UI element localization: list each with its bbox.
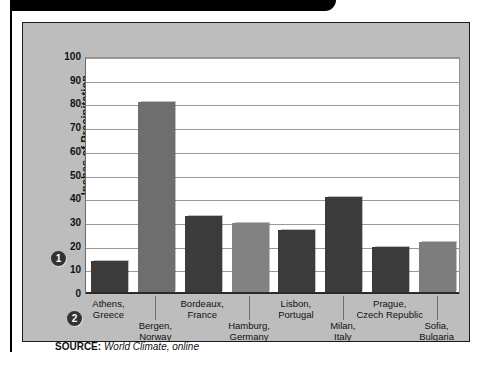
gridline	[86, 82, 459, 83]
bar-fill	[278, 230, 315, 294]
bar	[372, 247, 409, 294]
x-axis-label-line: Sofia,	[377, 320, 491, 331]
x-axis-label-line: Czech Republic	[330, 309, 450, 320]
x-axis-label-line: Bulgaria	[377, 331, 491, 342]
bar-fill	[91, 261, 128, 294]
y-tick-label: 50	[45, 171, 81, 181]
gridline	[86, 58, 459, 59]
bar	[232, 223, 269, 294]
x-axis-leader	[437, 296, 438, 320]
callout-marker-2[interactable]: 2	[67, 311, 82, 326]
plot-area	[85, 57, 460, 294]
bar	[325, 197, 362, 294]
bar	[419, 242, 456, 294]
bar-fill	[185, 216, 222, 294]
x-axis-label-line: Prague,	[330, 298, 450, 309]
y-tick-label: 90	[45, 76, 81, 86]
page-left-rule	[10, 0, 12, 352]
source-note: SOURCE: World Climate, online	[55, 341, 199, 352]
y-tick-label: 30	[45, 218, 81, 228]
plot-wrapper	[85, 57, 460, 294]
bar	[91, 261, 128, 294]
x-axis-leader	[343, 296, 344, 320]
y-tick-label: 60	[45, 147, 81, 157]
bar	[138, 102, 175, 294]
bar	[185, 216, 222, 294]
x-axis-leader	[155, 296, 156, 320]
bar-fill	[232, 223, 269, 294]
bar-fill	[325, 197, 362, 294]
x-axis-leader	[249, 296, 250, 320]
source-value: World Climate, online	[104, 341, 199, 352]
bar-fill	[419, 242, 456, 294]
y-tick-label: 70	[45, 123, 81, 133]
callout-marker-1[interactable]: 1	[51, 251, 66, 266]
bar-fill	[138, 102, 175, 294]
x-axis-label: Sofia,Bulgaria	[377, 320, 491, 342]
bar-fill	[372, 247, 409, 294]
figure-panel: Inches of Precipitation 1009080706050403…	[22, 22, 470, 342]
y-tick-label: 20	[45, 242, 81, 252]
source-label: SOURCE:	[55, 341, 101, 352]
x-axis-line	[86, 292, 459, 294]
x-axis-label: Prague,Czech Republic	[330, 298, 450, 320]
bar	[278, 230, 315, 294]
y-tick-label: 100	[45, 52, 81, 62]
decorative-top-bar	[10, 0, 336, 11]
y-tick-label: 10	[45, 265, 81, 275]
y-tick-label: 40	[45, 194, 81, 204]
y-tick-label: 80	[45, 99, 81, 109]
